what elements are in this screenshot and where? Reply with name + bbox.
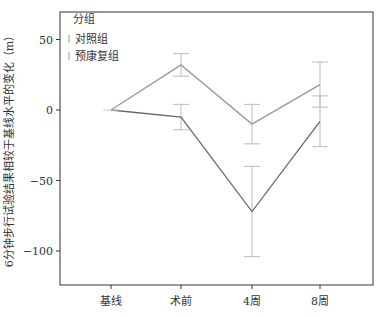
x-tick-label: 4周: [243, 295, 261, 308]
series-line: [111, 65, 320, 124]
y-tick-label: 0: [46, 104, 53, 117]
y-tick-label: −100: [23, 245, 53, 258]
x-tick-label: 术前: [170, 294, 192, 308]
y-tick-label: 50: [39, 34, 53, 47]
legend-title: 分组: [73, 12, 95, 26]
x-tick-label: 基线: [100, 294, 122, 308]
legend-label: 对照组: [75, 32, 108, 46]
line-chart: 500−50−100基线术前4周8周6分钟步行试验结果相较于基线水平的变化（m）…: [0, 0, 382, 317]
y-tick-label: −50: [30, 175, 53, 188]
x-tick-label: 8周: [311, 295, 329, 308]
series-line: [111, 110, 320, 212]
legend-label: 预康复组: [75, 49, 119, 63]
y-axis-label: 6分钟步行试验结果相较于基线水平的变化（m）: [2, 30, 16, 267]
